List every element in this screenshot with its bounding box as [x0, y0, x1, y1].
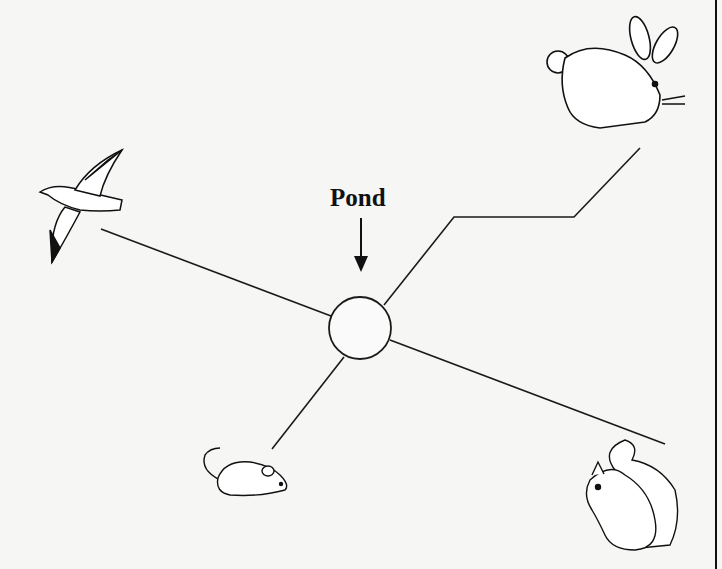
connector-lines [101, 148, 665, 449]
mouse-icon [204, 448, 287, 495]
rabbit-icon [547, 14, 685, 128]
squirrel-icon [586, 440, 677, 550]
diagram-graphics [0, 0, 722, 569]
pond-circle [329, 297, 391, 359]
food-web-diagram: Pond [0, 0, 722, 569]
arrow-down-icon [354, 218, 368, 272]
bird-icon [40, 150, 122, 262]
